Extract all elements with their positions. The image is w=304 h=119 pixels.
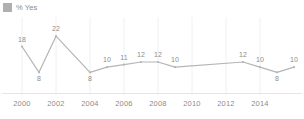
data-point-label: 22 — [52, 25, 60, 33]
x-tick-label: 2008 — [149, 99, 167, 108]
data-point-label: 10 — [103, 56, 111, 64]
x-tick-label: 2006 — [115, 99, 133, 108]
data-point — [293, 66, 295, 68]
data-point — [157, 61, 159, 63]
x-tick-label: 2002 — [47, 99, 65, 108]
data-point-label: 12 — [137, 51, 145, 59]
data-point — [140, 61, 142, 63]
line-chart: % Yes 18822810111212101210810 2000200220… — [0, 0, 304, 119]
data-point-label: 12 — [239, 51, 247, 59]
data-point-label: 10 — [256, 56, 264, 64]
data-point — [21, 45, 23, 47]
x-tick-label: 2012 — [217, 99, 235, 108]
data-point — [174, 66, 176, 68]
data-point — [55, 35, 57, 37]
data-point — [123, 63, 125, 65]
data-point — [38, 71, 40, 73]
x-axis: 20002002200420062008201020122014 — [0, 93, 304, 119]
square-swatch-icon — [3, 3, 12, 12]
data-point-label: 18 — [18, 36, 26, 44]
axis-rule — [2, 93, 302, 94]
data-point-label: 8 — [88, 75, 92, 83]
x-tick-label: 2014 — [251, 99, 269, 108]
data-point — [106, 66, 108, 68]
x-tick-label: 2010 — [183, 99, 201, 108]
plot-area: 18822810111212101210810 — [0, 17, 304, 95]
data-point — [89, 71, 91, 73]
legend-item-label: % Yes — [16, 3, 37, 12]
data-point-label: 8 — [275, 75, 279, 83]
data-point — [242, 61, 244, 63]
x-tick-label: 2004 — [81, 99, 99, 108]
x-tick-label: 2000 — [13, 99, 31, 108]
data-point-label: 10 — [290, 56, 298, 64]
data-point-label: 10 — [171, 56, 179, 64]
data-point-label: 11 — [120, 54, 127, 62]
data-point-label: 8 — [37, 75, 41, 83]
chart-legend: % Yes — [3, 2, 37, 13]
data-point-label: 12 — [154, 51, 162, 59]
data-point — [276, 71, 278, 73]
data-point — [259, 66, 261, 68]
